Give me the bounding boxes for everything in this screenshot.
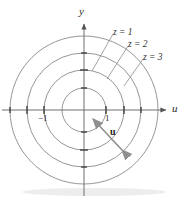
contour-plot-canvas: [0, 0, 189, 201]
leader-line-z1: [92, 34, 113, 71]
contour-plot-figure: u y −1 1 z = 1 z = 2 z = 3 u: [0, 0, 189, 201]
leader-line-z2: [107, 46, 128, 79]
u-tick-label-one: 1: [105, 114, 110, 123]
vector-u-arrow: [93, 119, 122, 150]
level-label-z3: z = 3: [143, 53, 163, 63]
u-axis-label: u: [172, 103, 178, 114]
figure-shadow: [22, 188, 166, 196]
u-tick-label-negative-one: −1: [38, 114, 48, 123]
y-axis-label: y: [79, 6, 84, 17]
vector-u-label: u: [110, 127, 116, 137]
level-label-z2: z = 2: [128, 40, 148, 50]
level-label-z1: z = 1: [113, 28, 133, 38]
